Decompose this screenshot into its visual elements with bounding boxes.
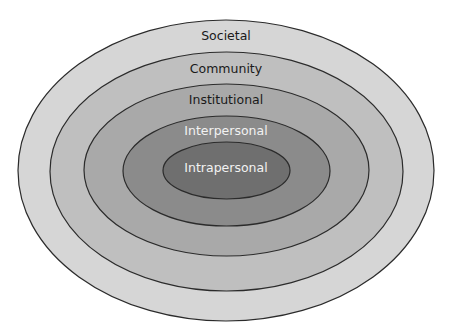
layer-societal-label: Societal [201, 28, 251, 43]
layer-intrapersonal-label: Intrapersonal [184, 160, 267, 175]
layer-community-label: Community [190, 61, 263, 76]
nested-ellipse-diagram: SocietalCommunityInstitutionalInterperso… [0, 0, 452, 335]
layer-institutional-label: Institutional [189, 92, 263, 107]
layer-interpersonal-label: Interpersonal [184, 123, 267, 138]
